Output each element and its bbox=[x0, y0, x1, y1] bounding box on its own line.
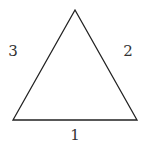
side-label-bottom: 1 bbox=[70, 126, 80, 144]
triangle-diagram: 3 2 1 bbox=[0, 0, 144, 147]
triangle bbox=[13, 10, 137, 120]
side-label-left: 3 bbox=[8, 42, 18, 60]
side-label-right: 2 bbox=[123, 42, 133, 60]
